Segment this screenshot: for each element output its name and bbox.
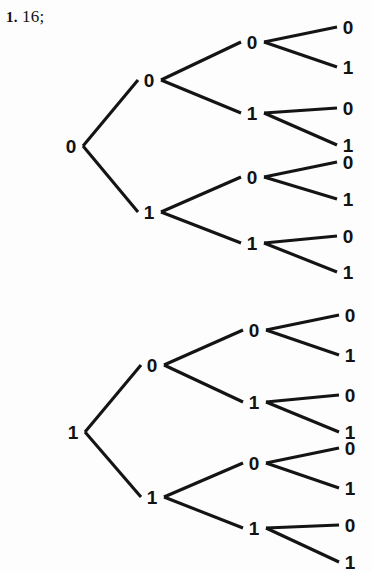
tree-bottom-leaf-2: 0 — [343, 386, 357, 405]
tree-top-edge-l3-2-1 — [264, 177, 337, 199]
tree-bottom-node-l2-1: 1 — [145, 488, 159, 507]
tree-bottom-leaf-6: 0 — [343, 516, 357, 535]
tree-bottom-edge-l3-0-0 — [266, 315, 339, 330]
tree-bottom-edge-l2-1-1 — [164, 497, 243, 528]
tree-bottom-edge-l3-0-1 — [266, 330, 339, 355]
tree-top-node-l3-1: 1 — [245, 104, 259, 123]
tree-bottom-edge-l3-1-0 — [266, 395, 339, 402]
tree-top-edge-l2-1-1 — [161, 212, 241, 243]
tree-top-edge-root-1 — [83, 146, 138, 212]
figure-page: 1. 16; 001010101010101101010101010101 — [0, 0, 372, 571]
tree-top-edge-l2-0-0 — [161, 42, 241, 80]
tree-top-edge-l2-0-1 — [161, 80, 241, 113]
tree-bottom-edge-l3-1-1 — [266, 402, 339, 432]
tree-top-node-l3-0: 0 — [245, 33, 259, 52]
tree-top-edge-l3-1-1 — [264, 113, 337, 145]
tree-top-edge-l2-1-0 — [161, 177, 241, 212]
tree-bottom-leaf-0: 0 — [343, 306, 357, 325]
tree-top-edge-l3-0-0 — [264, 27, 337, 42]
tree-bottom-edge-l3-2-0 — [266, 448, 339, 463]
tree-bottom-node-l3-0: 0 — [247, 321, 261, 340]
tree-top-edge-l3-1-0 — [264, 108, 337, 113]
tree-top-edge-l3-3-0 — [264, 236, 337, 243]
tree-bottom-edge-l3-3-1 — [266, 528, 339, 562]
tree-bottom-edge-root-0 — [85, 365, 141, 432]
tree-top-leaf-1: 1 — [341, 58, 355, 77]
tree-top-leaf-0: 0 — [341, 18, 355, 37]
tree-bottom-edge-l2-0-0 — [164, 330, 243, 365]
tree-top-node-l3-3: 1 — [245, 234, 259, 253]
tree-top-edge-l3-3-1 — [264, 243, 337, 272]
tree-bottom-leaf-5: 1 — [343, 479, 357, 498]
tree-bottom-edge-root-1 — [85, 432, 141, 497]
tree-top-node-l2-0: 0 — [142, 71, 156, 90]
tree-top-leaf-6: 0 — [341, 227, 355, 246]
tree-top-edge-root-0 — [83, 80, 138, 146]
tree-bottom-node-l3-3: 1 — [247, 519, 261, 538]
tree-bottom-edge-l2-1-0 — [164, 463, 243, 497]
tree-top-leaf-4: 0 — [341, 153, 355, 172]
tree-bottom-edge-l2-0-1 — [164, 365, 243, 402]
tree-bottom-leaf-4: 0 — [343, 439, 357, 458]
tree-top-edge-l3-2-0 — [264, 162, 337, 177]
tree-bottom-leaf-7: 1 — [343, 553, 357, 571]
tree-bottom-edge-l3-3-0 — [266, 525, 339, 528]
tree-bottom-node-l3-2: 0 — [247, 454, 261, 473]
tree-top-leaf-5: 1 — [341, 190, 355, 209]
tree-bottom-leaf-1: 1 — [343, 346, 357, 365]
tree-top-leaf-2: 0 — [341, 99, 355, 118]
tree-edges — [0, 0, 372, 571]
tree-bottom-node-root: 1 — [66, 423, 80, 442]
tree-top-node-l3-2: 0 — [245, 168, 259, 187]
tree-top-node-root: 0 — [64, 137, 78, 156]
tree-bottom-edge-l3-2-1 — [266, 463, 339, 488]
tree-top-leaf-7: 1 — [341, 263, 355, 282]
tree-top-edge-l3-0-1 — [264, 42, 337, 67]
tree-top-node-l2-1: 1 — [142, 203, 156, 222]
tree-bottom-node-l3-1: 1 — [247, 393, 261, 412]
tree-bottom-node-l2-0: 0 — [145, 356, 159, 375]
